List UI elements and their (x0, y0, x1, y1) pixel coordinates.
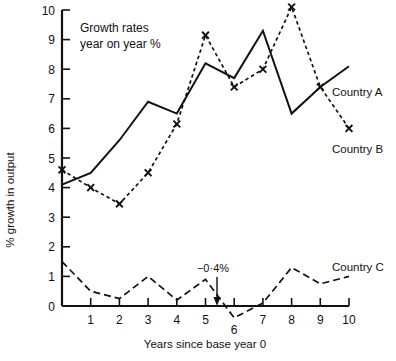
y-axis-ticks (62, 10, 70, 306)
x-tick-label: 7 (260, 313, 267, 327)
y-tick-label: 2 (48, 240, 55, 254)
x-tick-label: 2 (116, 313, 123, 327)
y-axis-tick-labels: 012345678910 (42, 4, 56, 314)
y-tick-label: 10 (42, 4, 56, 18)
data-point-marker-x (346, 125, 353, 132)
y-tick-label: 7 (48, 92, 55, 106)
data-point-marker-x (145, 169, 152, 176)
series-label-country-a: Country A (332, 86, 383, 98)
chart-title-line-2: year on year % (80, 37, 161, 51)
series-label-country-b: Country B (332, 143, 383, 155)
x-tick-label: 4 (173, 313, 180, 327)
y-tick-label: 8 (48, 63, 55, 77)
x-axis-title: Years since base year 0 (144, 338, 266, 350)
data-point-marker-x (260, 66, 267, 73)
chart-title-line-1: Growth rates (80, 21, 149, 35)
annotation-arrow-head (214, 297, 221, 306)
annotation-label-minus-0-4-percent: −0·4% (197, 262, 229, 274)
x-tick-label: 5 (202, 313, 209, 327)
data-point-marker-x (87, 184, 94, 191)
data-point-marker-x (231, 84, 238, 91)
x-tick-label: 9 (317, 313, 324, 327)
y-tick-label: 6 (48, 122, 55, 136)
x-tick-label: 1 (87, 313, 94, 327)
y-tick-label: 1 (48, 270, 55, 284)
annotation-layer: −0·4% (197, 262, 229, 306)
y-tick-label: 9 (48, 33, 55, 47)
x-axis-tick-labels: 12345678910 (87, 313, 356, 337)
growth-rates-chart: 012345678910 12345678910 % growth in out… (0, 0, 396, 361)
series-label-country-c: Country C (332, 261, 384, 273)
x-tick-label: 3 (145, 313, 152, 327)
x-tick-label: 8 (288, 313, 295, 327)
series-line-country-a (62, 31, 349, 185)
y-tick-label: 5 (48, 152, 55, 166)
chart-canvas: 012345678910 12345678910 % growth in out… (0, 0, 396, 361)
x-tick-label: 10 (342, 313, 356, 327)
y-tick-label: 0 (48, 300, 55, 314)
y-axis-title: % growth in output (4, 152, 16, 248)
x-tick-label: 6 (231, 323, 238, 337)
y-tick-label: 4 (48, 181, 55, 195)
data-point-marker-x (173, 121, 180, 128)
y-tick-label: 3 (48, 211, 55, 225)
data-point-marker-x (116, 200, 123, 207)
